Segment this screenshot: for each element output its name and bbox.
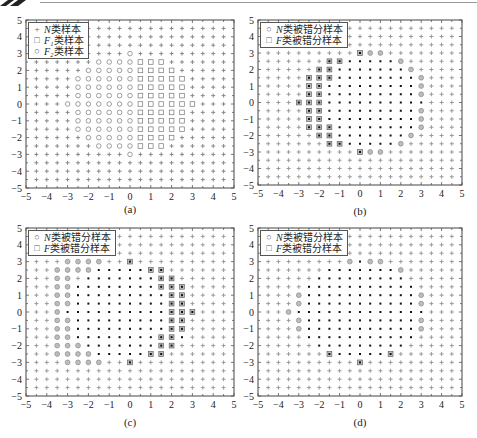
f-class-point bbox=[160, 294, 162, 296]
n-misclassified-marker bbox=[296, 318, 301, 323]
x-tick-label: 4 bbox=[211, 191, 216, 202]
f-class-point bbox=[318, 345, 320, 347]
f-class-point bbox=[119, 303, 121, 305]
legend-marker-icon: □ bbox=[264, 35, 274, 46]
legend: ○N类被错分样本□F类被错分样本 bbox=[28, 230, 116, 256]
f-class-point bbox=[139, 286, 141, 288]
f-class-point bbox=[400, 294, 402, 296]
y-tick-label: 4 bbox=[249, 31, 254, 42]
f-class-point bbox=[150, 294, 152, 296]
y-tick-label: 2 bbox=[17, 273, 22, 284]
f-class-point bbox=[379, 311, 381, 313]
f-class-point bbox=[379, 102, 381, 104]
f-class-point bbox=[369, 328, 371, 330]
f-class-point bbox=[139, 294, 141, 296]
legend-entry: ○N类被错分样本 bbox=[264, 232, 343, 243]
f-class-point bbox=[379, 77, 381, 79]
legend-class-name: N bbox=[44, 24, 51, 35]
legend: ○N类被错分样本□F类被错分样本 bbox=[260, 230, 348, 256]
f-class-point bbox=[98, 328, 100, 330]
f-class-point bbox=[339, 345, 341, 347]
f-class-point bbox=[359, 135, 361, 137]
y-tick-label: −2 bbox=[11, 132, 22, 143]
f-class-point bbox=[108, 294, 110, 296]
f-class-point bbox=[369, 336, 371, 338]
legend-entry: +N类样本 bbox=[32, 24, 84, 35]
f-class-point bbox=[129, 277, 131, 279]
legend-marker-icon: ○ bbox=[264, 232, 274, 243]
f-class-point bbox=[139, 303, 141, 305]
n-misclassified-marker bbox=[347, 259, 352, 264]
f-class-point bbox=[349, 69, 351, 71]
y-tick-label: 4 bbox=[17, 239, 22, 250]
x-tick-label: −4 bbox=[41, 191, 52, 202]
y-tick-label: 5 bbox=[17, 223, 22, 234]
f-class-point bbox=[139, 269, 141, 271]
x-tick-label: 3 bbox=[419, 399, 424, 410]
f-class-point bbox=[349, 345, 351, 347]
f-class-point bbox=[379, 294, 381, 296]
legend-entry: □F类被错分样本 bbox=[264, 35, 343, 46]
panel-caption: (b) bbox=[340, 205, 380, 217]
f-class-point bbox=[77, 328, 79, 330]
y-tick-label: 2 bbox=[249, 273, 254, 284]
f-class-point bbox=[369, 269, 371, 271]
y-tick-label: 5 bbox=[249, 15, 254, 26]
f-class-point bbox=[369, 126, 371, 128]
f-class-point bbox=[359, 69, 361, 71]
legend-class-name: N bbox=[276, 24, 283, 35]
n-misclassified-marker bbox=[65, 276, 70, 281]
legend-marker-icon: ○ bbox=[32, 46, 42, 57]
n-misclassified-marker bbox=[398, 268, 403, 273]
f-class-point bbox=[87, 319, 89, 321]
f-class-point bbox=[87, 311, 89, 313]
f-class-point bbox=[390, 336, 392, 338]
f-class-point bbox=[328, 319, 330, 321]
x-tick-label: 2 bbox=[169, 191, 174, 202]
legend-entry: □F₁类样本 bbox=[32, 35, 84, 46]
f-class-point bbox=[369, 60, 371, 62]
f-class-point bbox=[129, 319, 131, 321]
legend-label: 类被错分样本 bbox=[51, 232, 111, 243]
f-class-point bbox=[369, 93, 371, 95]
f-class-point bbox=[400, 345, 402, 347]
y-tick-label: 0 bbox=[249, 307, 254, 318]
n-misclassified-marker bbox=[368, 51, 373, 56]
y-tick-label: −5 bbox=[11, 391, 22, 402]
n-misclassified-marker bbox=[55, 293, 60, 298]
f-class-point bbox=[108, 345, 110, 347]
f-class-point bbox=[119, 269, 121, 271]
x-tick-label: 2 bbox=[398, 188, 403, 199]
f-class-point bbox=[129, 328, 131, 330]
f-class-point bbox=[308, 294, 310, 296]
n-misclassified-marker bbox=[55, 343, 60, 348]
y-tick-label: −1 bbox=[243, 114, 254, 125]
x-tick-label: 1 bbox=[148, 399, 153, 410]
x-tick-label: 4 bbox=[439, 188, 444, 199]
f-class-point bbox=[108, 319, 110, 321]
legend-class-name: F₂ bbox=[44, 46, 54, 57]
n-misclassified-marker bbox=[378, 51, 383, 56]
f-class-point bbox=[108, 353, 110, 355]
f-class-point bbox=[339, 135, 341, 137]
f-class-point bbox=[150, 277, 152, 279]
n-misclassified-marker bbox=[76, 352, 81, 357]
x-tick-label: 3 bbox=[419, 188, 424, 199]
x-tick-label: −5 bbox=[21, 191, 32, 202]
f-class-point bbox=[77, 294, 79, 296]
f-class-point bbox=[349, 110, 351, 112]
x-tick-label: −5 bbox=[253, 188, 264, 199]
f-class-point bbox=[339, 77, 341, 79]
f-class-point bbox=[77, 319, 79, 321]
n-misclassified-marker bbox=[286, 310, 291, 315]
f-class-point bbox=[400, 93, 402, 95]
f-class-point bbox=[410, 328, 412, 330]
n-misclassified-marker bbox=[86, 259, 91, 264]
f-class-point bbox=[339, 303, 341, 305]
y-tick-label: 5 bbox=[17, 15, 22, 26]
f-class-point bbox=[328, 102, 330, 104]
f-class-point bbox=[119, 311, 121, 313]
plot-panel-b: −5−4−3−2−1012345543210−1−2−3−4−5○N类被错分样本… bbox=[238, 0, 477, 219]
f-class-point bbox=[339, 311, 341, 313]
y-tick-label: −3 bbox=[243, 147, 254, 158]
